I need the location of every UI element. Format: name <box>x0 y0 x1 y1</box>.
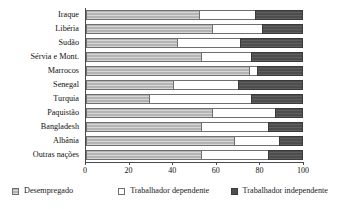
bar-segment <box>262 24 303 34</box>
y-axis-category-labels: IraqueLibériaSudãoSérvia e Mont.Marrocos… <box>0 8 83 162</box>
x-axis-line <box>85 162 303 163</box>
bar-row <box>86 80 303 90</box>
bar-row <box>86 10 303 20</box>
bar-row <box>86 94 303 104</box>
bar-segment <box>212 24 262 34</box>
bar-segment <box>201 52 251 62</box>
y-axis-label: Outras nações <box>0 150 83 160</box>
bar-segment <box>177 38 240 48</box>
bar-segment <box>86 94 149 104</box>
x-axis-tick <box>259 162 260 165</box>
y-axis-label: Iraque <box>0 10 83 20</box>
bar-segment <box>275 108 303 118</box>
swatch-dependent-icon <box>118 188 125 195</box>
bar-segment <box>234 136 280 146</box>
bar-row <box>86 136 303 146</box>
bar-segment <box>86 24 212 34</box>
plot-area <box>85 8 303 162</box>
legend-item[interactable]: Trabalhador dependente <box>118 186 230 196</box>
legend-item[interactable]: Desempregado <box>12 186 118 196</box>
bar-segment <box>249 66 258 76</box>
bar-row <box>86 150 303 160</box>
bar-segment <box>201 150 268 160</box>
y-axis-label: Marrocos <box>0 66 83 76</box>
legend-label: Trabalhador independente <box>243 186 328 196</box>
x-axis-tick <box>303 162 304 165</box>
bar-segment <box>199 10 255 20</box>
bar-segment <box>257 66 303 76</box>
bar-segment <box>86 10 199 20</box>
y-axis-label: Albânia <box>0 136 83 146</box>
y-axis-label: Turquia <box>0 94 83 104</box>
y-axis-label: Sudão <box>0 38 83 48</box>
bar-segment <box>255 10 303 20</box>
x-axis-tick-label: 80 <box>255 166 263 175</box>
x-axis-tick <box>85 162 86 165</box>
bar-row <box>86 122 303 132</box>
bar-segment <box>149 94 251 104</box>
bar-segment <box>86 38 177 48</box>
bar-segment <box>212 108 275 118</box>
chart-legend: DesempregadoTrabalhador dependenteTrabal… <box>12 186 328 196</box>
bar-segment <box>201 122 268 132</box>
x-axis-tick-label: 40 <box>168 166 176 175</box>
x-axis-tick-label: 0 <box>83 166 87 175</box>
bar-series-container <box>86 8 303 162</box>
swatch-independent-icon <box>231 188 238 195</box>
legend-item[interactable]: Trabalhador independente <box>231 186 328 196</box>
bar-segment <box>86 122 201 132</box>
swatch-unemployed-icon <box>12 188 19 195</box>
x-axis-tick-label: 20 <box>125 166 133 175</box>
bar-segment <box>238 80 303 90</box>
bar-segment <box>173 80 238 90</box>
x-axis-tick-label: 100 <box>297 166 309 175</box>
x-axis-tick-label: 60 <box>212 166 220 175</box>
bar-segment <box>86 80 173 90</box>
bar-segment <box>268 122 303 132</box>
bar-row <box>86 66 303 76</box>
y-axis-label: Sérvia e Mont. <box>0 52 83 62</box>
x-axis-tick <box>216 162 217 165</box>
bar-segment <box>240 38 303 48</box>
legend-label: Desempregado <box>24 186 73 196</box>
x-axis-tick <box>172 162 173 165</box>
y-axis-label: Paquistão <box>0 108 83 118</box>
stacked-bar-chart: IraqueLibériaSudãoSérvia e Mont.Marrocos… <box>0 0 338 209</box>
bar-segment <box>251 94 303 104</box>
bar-row <box>86 24 303 34</box>
y-axis-label: Libéria <box>0 24 83 34</box>
legend-label: Trabalhador dependente <box>130 186 209 196</box>
bar-row <box>86 108 303 118</box>
x-axis-tick <box>129 162 130 165</box>
y-axis-label: Bangladesh <box>0 122 83 132</box>
bar-row <box>86 52 303 62</box>
bar-segment <box>268 150 303 160</box>
bar-segment <box>86 108 212 118</box>
bar-segment <box>86 52 201 62</box>
bar-segment <box>86 150 201 160</box>
bar-segment <box>279 136 303 146</box>
bar-segment <box>86 136 234 146</box>
bar-segment <box>86 66 249 76</box>
bar-segment <box>251 52 303 62</box>
bar-row <box>86 38 303 48</box>
y-axis-label: Senegal <box>0 80 83 90</box>
